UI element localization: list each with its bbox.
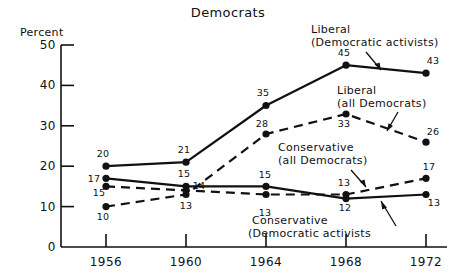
point-label: 20 xyxy=(97,148,110,159)
data-point xyxy=(102,175,109,182)
anno-line-2: (Democratic activists xyxy=(248,227,371,240)
anno-arrowhead xyxy=(387,123,393,131)
point-label: 35 xyxy=(257,87,270,98)
y-tick-label-20: 20 xyxy=(40,159,56,173)
y-axis-ticks xyxy=(61,45,74,207)
y-tick-label-50: 50 xyxy=(40,38,56,52)
point-label: 13 xyxy=(338,177,351,188)
data-point xyxy=(182,183,189,190)
point-label: 21 xyxy=(178,144,191,155)
data-point xyxy=(262,130,269,137)
x-tick-label-1968: 1968 xyxy=(330,255,363,269)
point-label: 15 xyxy=(259,169,272,180)
y-tick-label-10: 10 xyxy=(40,200,56,214)
anno-liberal-all: Liberal (all Democrats) xyxy=(337,84,426,131)
point-label: 28 xyxy=(256,118,269,129)
series-liberal-activists-points xyxy=(102,62,429,170)
anno-arrowhead xyxy=(381,201,387,210)
chart-container: Democrats Percent 50 40 30 20 10 0 1956 xyxy=(0,0,458,274)
point-label: 15 xyxy=(93,187,106,198)
point-label: 43 xyxy=(427,55,440,66)
anno-line-1: Liberal xyxy=(337,84,376,97)
point-label: 17 xyxy=(423,161,436,172)
anno-line-2: (all Democrats) xyxy=(337,97,426,110)
democrats-line-chart: Democrats Percent 50 40 30 20 10 0 1956 xyxy=(0,0,458,274)
anno-liberal-activists: Liberal (Democratic activists) xyxy=(311,23,439,70)
anno-conservative-all: Conservative (all Democrats) xyxy=(278,141,367,187)
x-tick-label-1972: 1972 xyxy=(410,255,443,269)
anno-line-1: Conservative xyxy=(252,214,328,227)
data-point xyxy=(422,139,429,146)
point-label: 33 xyxy=(338,118,351,129)
chart-title: Democrats xyxy=(191,5,266,20)
point-label: 13 xyxy=(428,197,441,208)
y-tick-label-30: 30 xyxy=(40,119,56,133)
x-tick-label-1960: 1960 xyxy=(170,255,203,269)
data-point xyxy=(102,163,109,170)
data-point xyxy=(262,191,269,198)
data-point xyxy=(102,203,109,210)
y-tick-label-40: 40 xyxy=(40,78,56,92)
anno-line-2: (all Democrats) xyxy=(278,154,367,167)
anno-line-1: Conservative xyxy=(278,141,354,154)
y-tick-label-0: 0 xyxy=(48,240,56,254)
data-point xyxy=(342,110,349,117)
data-point xyxy=(262,102,269,109)
x-tick-label-1964: 1964 xyxy=(250,255,283,269)
point-label: 13 xyxy=(180,200,193,211)
series-liberal-activists-line xyxy=(106,65,426,166)
data-point xyxy=(342,62,349,69)
point-label: 26 xyxy=(427,126,440,137)
point-label: 17 xyxy=(88,173,101,184)
x-tick-label-1956: 1956 xyxy=(90,255,123,269)
data-point xyxy=(262,183,269,190)
data-point xyxy=(422,70,429,77)
point-label: 10 xyxy=(97,211,110,222)
point-label: 15 xyxy=(178,168,191,179)
point-label: 12 xyxy=(339,202,352,213)
data-point xyxy=(182,159,189,166)
anno-line-1: Liberal xyxy=(311,23,350,36)
anno-line-2: (Democratic activists) xyxy=(311,36,439,49)
data-point xyxy=(422,175,429,182)
